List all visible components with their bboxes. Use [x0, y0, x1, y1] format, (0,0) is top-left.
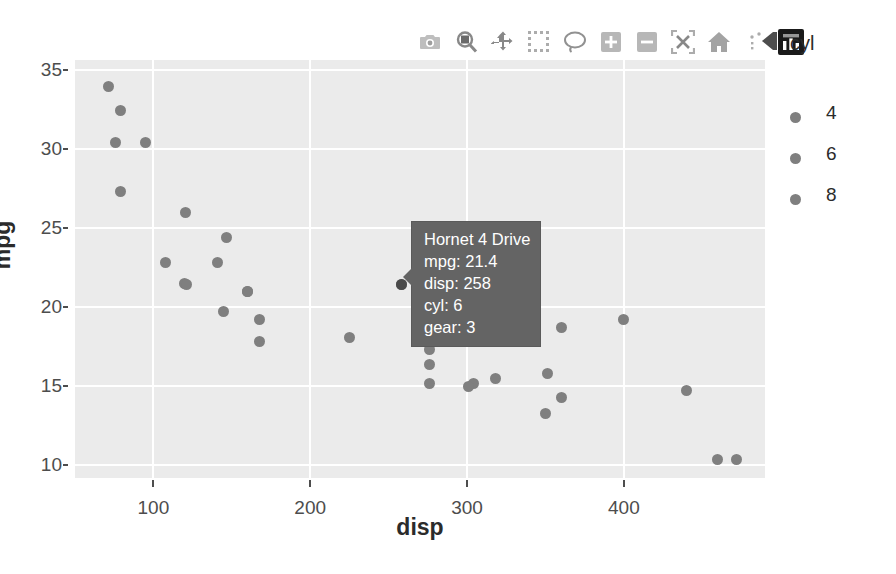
- scatter-point[interactable]: [424, 378, 435, 389]
- x-axis-label: disp: [75, 514, 765, 541]
- zoom-out-icon[interactable]: [634, 29, 660, 55]
- camera-icon[interactable]: [418, 29, 444, 55]
- modebar[interactable]: [418, 24, 804, 60]
- scatter-point[interactable]: [180, 207, 191, 218]
- scatter-point[interactable]: [110, 137, 121, 148]
- cyl-chip-label: cyl: [790, 32, 814, 55]
- legend-dot-icon: [790, 153, 801, 164]
- legend-dot-icon: [790, 194, 801, 205]
- scatter-point[interactable]: [221, 232, 232, 243]
- y-tick-label: 10: [41, 454, 62, 476]
- legend-item-label: 6: [826, 143, 837, 165]
- tooltip-row-cyl: cyl: 6: [424, 294, 532, 316]
- scatter-point[interactable]: [556, 392, 567, 403]
- scatter-point[interactable]: [254, 336, 265, 347]
- scatter-point[interactable]: [424, 359, 435, 370]
- hover-tooltip: Hornet 4 Drive mpg: 21.4 disp: 258 cyl: …: [412, 222, 540, 346]
- gridline-vertical: [623, 60, 625, 478]
- gridline-horizontal: [75, 69, 765, 71]
- tooltip-title: Hornet 4 Drive: [424, 228, 532, 250]
- box-select-icon[interactable]: [526, 29, 552, 55]
- y-tick-mark: [63, 385, 68, 387]
- scatter-point[interactable]: [212, 257, 223, 268]
- scatter-point[interactable]: [490, 373, 501, 384]
- scatter-point[interactable]: [731, 454, 742, 465]
- autoscale-icon[interactable]: [670, 29, 696, 55]
- y-axis-label: mpg: [0, 221, 16, 270]
- scatter-point[interactable]: [181, 279, 192, 290]
- plot-canvas: 101520253035 mpg 100200300400 disp 468 H…: [0, 0, 896, 574]
- scatter-point[interactable]: [540, 408, 551, 419]
- chip-arrow-icon: [762, 32, 773, 50]
- tooltip-row-mpg: mpg: 21.4: [424, 250, 532, 272]
- y-tick-label: 20: [41, 296, 62, 318]
- legend-item[interactable]: 4: [790, 100, 890, 141]
- chip-body: [773, 32, 777, 50]
- gridline-vertical: [152, 60, 154, 478]
- y-tick-mark: [63, 306, 68, 308]
- legend-item-label: 8: [826, 184, 837, 206]
- zoom-in-icon[interactable]: [598, 29, 624, 55]
- scatter-point[interactable]: [344, 332, 355, 343]
- y-tick-label: 35: [41, 59, 62, 81]
- scatter-point[interactable]: [140, 137, 151, 148]
- cyl-hover-chip: cyl: [762, 28, 777, 54]
- scatter-point[interactable]: [463, 381, 474, 392]
- legend[interactable]: 468: [790, 100, 890, 223]
- lasso-select-icon[interactable]: [562, 29, 588, 55]
- y-tick-label: 15: [41, 375, 62, 397]
- legend-item[interactable]: 6: [790, 141, 890, 182]
- x-tick-mark: [309, 480, 311, 487]
- tooltip-row-gear: gear: 3: [424, 316, 532, 338]
- legend-item-label: 4: [826, 102, 837, 124]
- scatter-point[interactable]: [712, 454, 723, 465]
- y-tick-label: 25: [41, 217, 62, 239]
- scatter-point[interactable]: [681, 385, 692, 396]
- y-tick-mark: [63, 464, 68, 466]
- tooltip-row-disp: disp: 258: [424, 272, 532, 294]
- x-tick-mark: [152, 480, 154, 487]
- zoom-icon[interactable]: [454, 29, 480, 55]
- scatter-point[interactable]: [556, 322, 567, 333]
- home-icon[interactable]: [706, 29, 732, 55]
- scatter-point[interactable]: [160, 257, 171, 268]
- y-tick-mark: [63, 69, 68, 71]
- gridline-horizontal: [75, 385, 765, 387]
- tooltip-arrow: [403, 268, 412, 286]
- scatter-point[interactable]: [542, 368, 553, 379]
- gridline-horizontal: [75, 148, 765, 150]
- y-tick-mark: [63, 227, 68, 229]
- scatter-point[interactable]: [115, 105, 126, 116]
- y-tick-label: 30: [41, 138, 62, 160]
- scatter-point[interactable]: [242, 286, 253, 297]
- scatter-point[interactable]: [218, 306, 229, 317]
- gridline-horizontal: [75, 464, 765, 466]
- legend-item[interactable]: 8: [790, 182, 890, 223]
- x-tick-mark: [466, 480, 468, 487]
- scatter-point[interactable]: [254, 314, 265, 325]
- x-tick-mark: [623, 480, 625, 487]
- pan-icon[interactable]: [490, 29, 516, 55]
- scatter-point[interactable]: [103, 81, 114, 92]
- legend-dot-icon: [790, 112, 801, 123]
- scatter-point[interactable]: [618, 314, 629, 325]
- scatter-point[interactable]: [115, 186, 126, 197]
- gridline-vertical: [309, 60, 311, 478]
- x-axis-ticks: 100200300400: [75, 478, 765, 518]
- y-tick-mark: [63, 148, 68, 150]
